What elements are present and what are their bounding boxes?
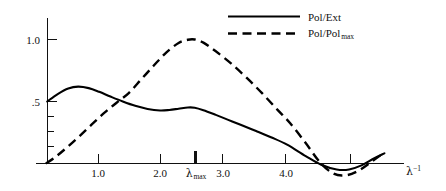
x-tick-label-one: 1.0 [91, 168, 105, 179]
legend-label-pol-polmax: Pol/Polmax [308, 28, 354, 40]
plot-canvas [0, 0, 446, 191]
x-tick-label-two: 2.0 [153, 168, 167, 179]
legend-label-pol-polmax-base: Pol/Pol [308, 27, 340, 39]
y-tick-label-one: 1.0 [10, 35, 40, 46]
legend-label-pol-ext: Pol/Ext [308, 12, 341, 23]
x-tick-label-three: 3.0 [216, 168, 230, 179]
series-pol-polmax-curve [46, 39, 382, 175]
legend-swatches [228, 17, 300, 34]
figure-root: 1.0 .5 1.0 2.0 λmax 3.0 4.0 λ−1 Pol/Ext … [0, 0, 446, 191]
y-tick-label-half: .5 [10, 97, 40, 108]
lambda-symbol: λ [186, 167, 193, 180]
x-axis-label-base: λ [406, 165, 413, 178]
lambda-max-subscript: max [193, 172, 207, 181]
x-tick-label-four: 4.0 [279, 168, 293, 179]
series-pol-ext-curve [47, 87, 384, 170]
x-tick-marks [99, 151, 351, 164]
x-axis-label-exponent: −1 [413, 164, 421, 173]
y-tick-marks [48, 40, 58, 147]
x-axis-label: λ−1 [406, 165, 421, 178]
legend-label-pol-polmax-subscript: max [340, 32, 354, 41]
series-group [46, 39, 385, 175]
x-tick-label-lambda-max: λmax [186, 168, 207, 180]
